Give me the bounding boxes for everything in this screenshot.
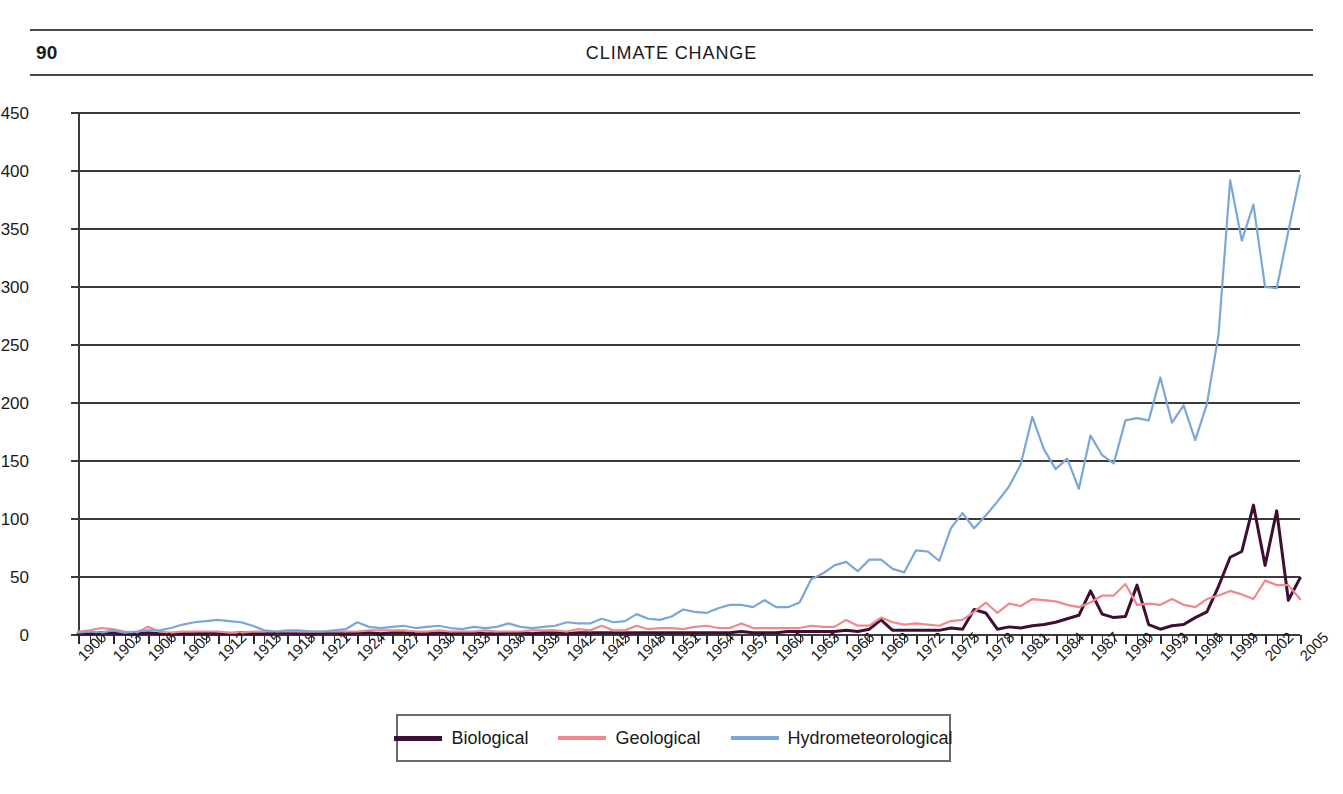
legend-label-biological: Biological xyxy=(451,728,528,749)
x-axis-label: 2005 xyxy=(1296,628,1332,664)
y-axis-label: 400 xyxy=(0,163,29,180)
x-axis-tick xyxy=(1021,635,1023,644)
y-axis-label: 250 xyxy=(0,337,29,354)
y-axis-tick xyxy=(71,170,78,172)
x-axis-tick xyxy=(1125,635,1127,644)
y-axis-tick xyxy=(71,286,78,288)
x-axis-tick xyxy=(1091,635,1093,644)
x-axis-tick xyxy=(1056,635,1058,644)
x-axis-tick xyxy=(811,635,813,644)
legend-item-hydrometeorological: Hydrometeorological xyxy=(731,728,953,749)
x-axis-tick xyxy=(846,635,848,644)
legend-label-hydrometeorological: Hydrometeorological xyxy=(788,728,953,749)
y-axis-tick xyxy=(71,228,78,230)
x-axis-tick xyxy=(951,635,953,644)
y-axis-label: 450 xyxy=(0,105,29,122)
series-line-geological xyxy=(78,580,1300,632)
series-line-biological xyxy=(78,505,1300,634)
series-lines xyxy=(78,113,1300,635)
x-axis-tick xyxy=(462,635,464,644)
chart-legend: Biological Geological Hydrometeorologica… xyxy=(396,714,951,762)
x-axis-tick xyxy=(218,635,220,644)
x-axis-tick xyxy=(287,635,289,644)
x-axis-tick xyxy=(253,635,255,644)
header-rule-top xyxy=(30,29,1313,31)
legend-item-biological: Biological xyxy=(394,728,528,749)
x-axis-tick xyxy=(322,635,324,644)
chart: 050100150200250300350400450 190019031906… xyxy=(0,90,1343,710)
x-axis-tick xyxy=(392,635,394,644)
x-axis-tick xyxy=(357,635,359,644)
y-axis-label: 100 xyxy=(0,511,29,528)
x-axis-tick xyxy=(916,635,918,644)
y-axis-label: 150 xyxy=(0,453,29,470)
y-axis-label: 300 xyxy=(0,279,29,296)
y-axis-label: 200 xyxy=(0,395,29,412)
x-axis-tick xyxy=(881,635,883,644)
x-axis-tick xyxy=(148,635,150,644)
x-axis-tick xyxy=(706,635,708,644)
x-axis-tick xyxy=(497,635,499,644)
legend-label-geological: Geological xyxy=(615,728,700,749)
x-axis-tick xyxy=(602,635,604,644)
series-line-hydrometeorological xyxy=(78,176,1300,633)
x-axis-tick xyxy=(1265,635,1267,644)
x-axis-tick xyxy=(741,635,743,644)
page: 90 CLIMATE CHANGE 0501001502002503003504… xyxy=(0,0,1343,794)
x-axis-tick xyxy=(567,635,569,644)
x-axis-tick xyxy=(1160,635,1162,644)
y-axis-tick xyxy=(71,402,78,404)
x-axis-tick xyxy=(1195,635,1197,644)
x-axis-tick xyxy=(1300,635,1302,644)
x-axis-tick xyxy=(672,635,674,644)
y-axis-tick xyxy=(71,518,78,520)
y-axis-tick xyxy=(71,344,78,346)
x-axis-tick xyxy=(427,635,429,644)
legend-swatch-geological xyxy=(558,736,606,740)
y-axis-tick xyxy=(71,460,78,462)
x-axis-tick xyxy=(78,635,80,644)
legend-swatch-biological xyxy=(394,736,442,741)
x-axis-tick xyxy=(532,635,534,644)
header-rule-bottom xyxy=(30,74,1313,76)
y-axis-label: 0 xyxy=(0,627,29,644)
x-axis-tick xyxy=(637,635,639,644)
y-axis-tick xyxy=(71,112,78,114)
x-axis-tick xyxy=(183,635,185,644)
y-axis-label: 350 xyxy=(0,221,29,238)
legend-item-geological: Geological xyxy=(558,728,700,749)
y-axis-tick xyxy=(71,576,78,578)
x-axis-labels: 1900190319061909191219151918192119241927… xyxy=(0,646,1343,716)
x-axis-tick xyxy=(986,635,988,644)
legend-swatch-hydrometeorological xyxy=(731,736,779,740)
y-axis-label: 50 xyxy=(0,569,29,586)
running-head: CLIMATE CHANGE xyxy=(0,43,1343,64)
x-axis-tick xyxy=(1230,635,1232,644)
x-axis-tick xyxy=(113,635,115,644)
x-axis-tick xyxy=(776,635,778,644)
